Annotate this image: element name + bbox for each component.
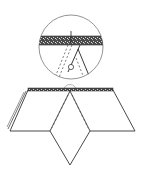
hatched-spine [28,88,113,91]
pivot-circle [68,64,73,69]
detail-magnifier [38,15,104,80]
folding-diagram [0,0,143,172]
